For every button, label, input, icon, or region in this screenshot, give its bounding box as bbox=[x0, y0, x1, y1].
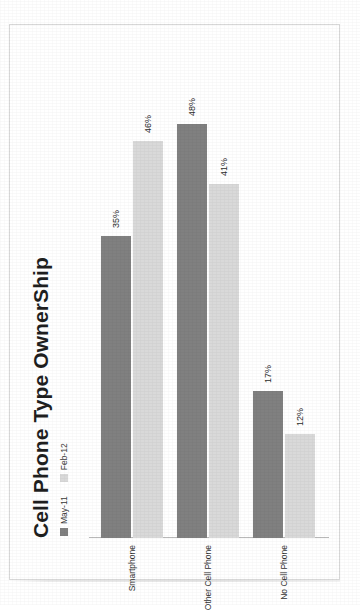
bar-label-smartphone-feb12: 46% bbox=[143, 115, 153, 133]
bar-other-cell-phone-feb12 bbox=[209, 184, 239, 538]
category-label-no-cell-phone: No Cell Phone bbox=[279, 540, 289, 600]
bar-row-smartphone-may11: 35% bbox=[101, 64, 131, 538]
bar-row-other-feb12: 41% bbox=[209, 64, 239, 538]
chart-legend: May-11 Feb-12 bbox=[60, 40, 69, 538]
bar-smartphone-may11 bbox=[101, 236, 131, 538]
bar-label-no-cell-phone-may11: 17% bbox=[263, 365, 273, 383]
category-group-other-cell-phone: 48% 41% Other Cell Phone bbox=[177, 64, 239, 538]
bar-row-nocell-feb12: 12% bbox=[285, 64, 315, 538]
bar-chart: Cell Phone Type OwnerShip May-11 Feb-12 bbox=[21, 40, 339, 564]
bar-label-smartphone-may11: 35% bbox=[111, 210, 121, 228]
plot-area: 35% 46% Smartphone 48% bbox=[95, 64, 319, 538]
category-label-smartphone: Smartphone bbox=[127, 540, 137, 591]
bar-label-other-cell-phone-may11: 48% bbox=[187, 98, 197, 116]
bar-row-other-may11: 48% bbox=[177, 64, 207, 538]
legend-swatch-may11 bbox=[60, 528, 68, 536]
bar-row-nocell-may11: 17% bbox=[253, 64, 283, 538]
category-group-smartphone: 35% 46% Smartphone bbox=[101, 64, 163, 538]
category-label-other-cell-phone: Other Cell Phone bbox=[203, 540, 213, 610]
legend-swatch-feb12 bbox=[60, 474, 68, 482]
category-group-no-cell-phone: 17% 12% No Cell Phone bbox=[253, 64, 315, 538]
bar-other-cell-phone-may11 bbox=[177, 124, 207, 538]
chart-title: Cell Phone Type OwnerShip bbox=[29, 40, 53, 538]
bar-label-other-cell-phone-feb12: 41% bbox=[219, 158, 229, 176]
legend-label-may11: May-11 bbox=[60, 496, 69, 524]
legend-item-may11: May-11 bbox=[60, 496, 69, 536]
legend-label-feb12: Feb-12 bbox=[60, 443, 69, 470]
bar-no-cell-phone-feb12 bbox=[285, 434, 315, 538]
bar-row-smartphone-feb12: 46% bbox=[133, 64, 163, 538]
legend-item-feb12: Feb-12 bbox=[60, 443, 69, 482]
chart-header: Cell Phone Type OwnerShip May-11 Feb-12 bbox=[29, 40, 69, 564]
bar-no-cell-phone-may11 bbox=[253, 391, 283, 538]
bar-smartphone-feb12 bbox=[133, 141, 163, 538]
bar-label-no-cell-phone-feb12: 12% bbox=[295, 408, 305, 426]
